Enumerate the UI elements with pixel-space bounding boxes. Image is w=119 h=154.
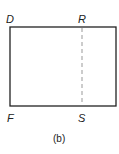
label-r: R	[78, 14, 86, 25]
label-s: S	[78, 113, 85, 124]
label-f: F	[7, 113, 14, 124]
label-d: D	[6, 14, 14, 25]
rectangle-outline	[10, 27, 116, 106]
diagram-figure	[0, 0, 119, 154]
figure-caption: (b)	[53, 134, 65, 144]
